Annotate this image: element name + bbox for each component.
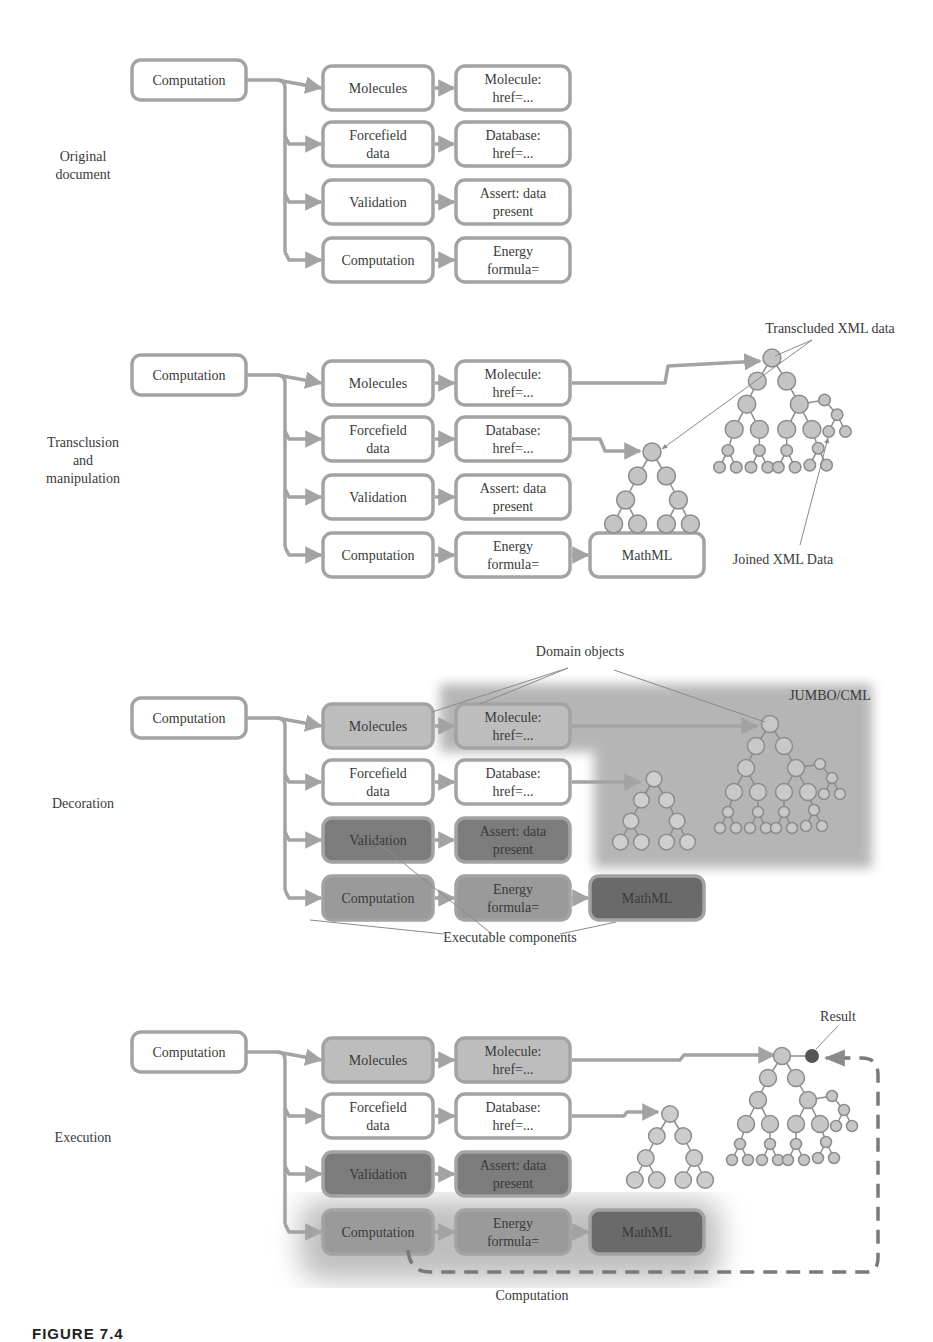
tree-node	[757, 1155, 768, 1166]
panel-0-row1-node-label: data	[366, 146, 390, 161]
panel-2-row1-target-label: Database:	[485, 766, 540, 781]
tree-node	[669, 491, 687, 509]
panel-3-row2-target-label: Assert: data	[480, 1158, 547, 1173]
tree-node	[743, 1155, 754, 1166]
annotation-leader	[310, 920, 444, 934]
tree-node	[659, 792, 675, 808]
panel-3-row1-target: Database:href=...	[456, 1094, 570, 1138]
panel-3-row0-node-label: Molecules	[349, 1053, 407, 1068]
tree-node	[738, 1116, 755, 1133]
panel-0-row0-target-label: Molecule:	[485, 72, 542, 87]
tree-node	[778, 420, 796, 438]
panel-3-annotation-1: Computation	[495, 1288, 568, 1303]
tree-node	[829, 1153, 840, 1164]
panel-1-row2-target-label: Assert: data	[480, 481, 547, 496]
tree-node	[662, 1106, 679, 1123]
tree-node	[831, 1121, 842, 1132]
tree-node	[809, 805, 820, 816]
panel-0-row3-target-label: Energy	[493, 244, 533, 259]
panel-3-row2-node: Validation	[323, 1152, 433, 1196]
tree-node	[715, 823, 726, 834]
panel-1-side-label: and	[73, 453, 93, 468]
panel-2-row3-target: Energyformula=	[456, 876, 570, 920]
panel-1-row1-target: Database:href=...	[456, 417, 570, 461]
tree-node	[831, 409, 843, 421]
tree-node	[748, 738, 765, 755]
tree-node	[669, 813, 685, 829]
panel-3-row3-node-label: Computation	[341, 1225, 414, 1240]
tree-node	[605, 515, 623, 533]
tree-node	[815, 759, 826, 770]
tree-node	[613, 834, 629, 850]
panel-2-root-box: Computation	[132, 698, 246, 738]
tree-node	[804, 459, 816, 471]
tree-node	[776, 784, 793, 801]
branch-arrow	[285, 136, 321, 144]
tree-node	[788, 1070, 805, 1087]
panel-1-row3-target: Energyformula=	[456, 533, 570, 577]
panel-3-row0-node: Molecules	[323, 1038, 433, 1082]
tree-node	[801, 821, 812, 832]
tree-node	[817, 821, 828, 832]
panel-0-row3-target-label: formula=	[487, 262, 539, 277]
panel-2-row1-target: Database:href=...	[456, 760, 570, 804]
panel-3-annotation-0: Result	[820, 1009, 856, 1024]
panel-3-row3-target-label: Energy	[493, 1216, 533, 1231]
transclusion-arrow	[572, 1055, 774, 1060]
panel-2-annotation-0: Domain objects	[536, 644, 624, 659]
panel-2-row1-node: Forcefielddata	[323, 760, 433, 804]
tree-node	[791, 1139, 802, 1150]
panel-3-row1-target-label: Database:	[485, 1100, 540, 1115]
branch-arrow	[285, 1108, 321, 1116]
panel-0-row3-node: Computation	[323, 238, 433, 282]
branch-arrow	[285, 431, 321, 439]
panel-3-row1-node-label: data	[366, 1118, 390, 1133]
tree-node	[812, 1116, 829, 1133]
annotation-leader	[800, 438, 828, 545]
panel-3-row0-target-label: href=...	[493, 1062, 534, 1077]
transclusion-arrow	[572, 439, 640, 451]
tree-node	[778, 372, 796, 390]
tree-node	[745, 823, 756, 834]
panel-2-row2-target-label: present	[493, 842, 534, 857]
tree-node	[812, 443, 824, 455]
tree-node	[750, 420, 768, 438]
tree-node	[681, 515, 699, 533]
result-node	[805, 1049, 819, 1063]
panel-3-row3-target: Energyformula=	[456, 1210, 570, 1254]
tree-node	[727, 1155, 738, 1166]
panel-1-row2-node: Validation	[323, 475, 433, 519]
branch-trunk	[246, 1052, 285, 1224]
panel-3-row2-node-label: Validation	[349, 1167, 407, 1182]
tree-node	[776, 738, 793, 755]
tree-node	[788, 1116, 805, 1133]
panel-2-row0-node-label: Molecules	[349, 719, 407, 734]
panel-1-row3-target-label: Energy	[493, 539, 533, 554]
panel-3-row3-target-label: formula=	[487, 1234, 539, 1249]
panel-2-annotation-1: JUMBO/CML	[789, 688, 871, 703]
panel-0-side-label: document	[55, 167, 110, 182]
panel-2-root-box-label: Computation	[152, 711, 225, 726]
tree-node	[765, 1139, 776, 1150]
panel-1-row2-target-label: present	[493, 499, 534, 514]
panel-2-row2-node-label: Validation	[349, 833, 407, 848]
panel-1-root-box: Computation	[132, 355, 246, 395]
tree-node	[731, 461, 743, 473]
panel-2-row2-node: Validation	[323, 818, 433, 862]
tree-node	[659, 834, 675, 850]
panel-0-row0-target: Molecule:href=...	[456, 66, 570, 110]
panel-1-row1-target-label: href=...	[493, 441, 534, 456]
panel-3-side-label: Execution	[55, 1130, 112, 1145]
tree-node	[617, 491, 635, 509]
tree-node	[773, 461, 785, 473]
panel-2-row3-mathml: MathML	[590, 876, 704, 920]
tree-node	[771, 823, 782, 834]
tree-node	[623, 813, 639, 829]
panel-1-row3-mathml: MathML	[590, 533, 704, 577]
branch-trunk	[246, 718, 285, 890]
branch-arrow	[285, 832, 321, 840]
panel-1-row1-target-label: Database:	[485, 423, 540, 438]
tree-node	[823, 426, 835, 438]
branch-trunk	[246, 80, 285, 252]
